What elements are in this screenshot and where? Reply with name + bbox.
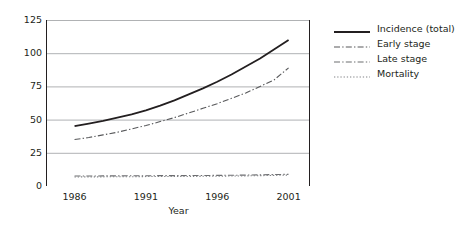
legend-item[interactable]: Late stage — [334, 51, 460, 66]
x-tick-label: 1996 — [194, 191, 240, 202]
plot-svg — [46, 20, 310, 186]
y-tick-label: 100 — [16, 48, 42, 58]
y-tick-label: 125 — [16, 15, 42, 25]
legend-label: Mortality — [377, 68, 419, 80]
legend-line-swatch — [334, 68, 370, 80]
y-axis-tick-labels: 0255075100125 — [12, 0, 42, 230]
y-tick-label: 0 — [16, 181, 42, 191]
y-tick-label: 75 — [16, 81, 42, 91]
plot-area — [46, 20, 310, 186]
x-axis-title: Year — [46, 205, 311, 216]
legend-item[interactable]: Early stage — [334, 36, 460, 51]
legend-line-swatch — [334, 23, 370, 35]
legend-label: Incidence (total) — [377, 23, 455, 35]
legend-label: Early stage — [377, 38, 430, 50]
legend-item[interactable]: Incidence (total) — [334, 21, 460, 36]
y-tick-label: 50 — [16, 115, 42, 125]
chart-legend: Incidence (total)Early stageLate stageMo… — [334, 21, 460, 81]
y-tick-label: 25 — [16, 148, 42, 158]
chart-figure: Rate per 100 000 population 025507510012… — [0, 0, 462, 230]
series-line-3 — [75, 174, 289, 176]
series-line-2 — [75, 68, 289, 140]
x-tick-label: 1991 — [123, 191, 169, 202]
x-tick-label: 1986 — [52, 191, 98, 202]
legend-line-swatch — [334, 53, 370, 65]
series-line-1 — [75, 40, 289, 126]
x-tick-label: 2001 — [266, 191, 312, 202]
legend-item[interactable]: Mortality — [334, 66, 460, 81]
legend-label: Late stage — [377, 53, 427, 65]
legend-line-swatch — [334, 38, 370, 50]
